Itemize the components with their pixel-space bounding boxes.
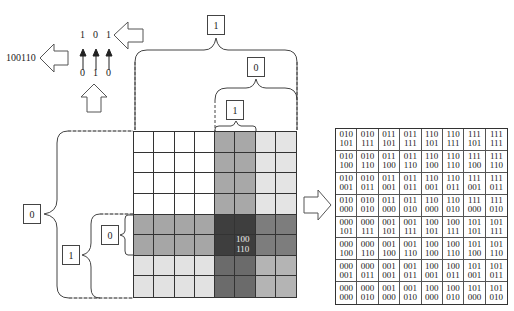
grid-cell: [235, 276, 255, 297]
code-cell: 011000: [379, 195, 400, 217]
code-lower: 001: [425, 183, 439, 192]
code-cell: 101100: [464, 238, 485, 260]
code-cell: 101011: [486, 260, 507, 282]
grid-cell: [215, 215, 235, 236]
code-lower: 111: [361, 139, 374, 148]
code-lower: 100: [425, 249, 439, 258]
grid-cell: [235, 132, 255, 153]
code-lower: 111: [361, 227, 374, 236]
code-lower: 101: [382, 139, 396, 148]
grid-cell: [154, 173, 174, 194]
grid-cell: [175, 256, 195, 277]
code-cell: 010101: [336, 129, 357, 151]
grid-cell: [215, 235, 235, 256]
code-cell: 110000: [422, 195, 443, 217]
grid-cell: [134, 215, 154, 236]
code-cell: 101010: [486, 282, 507, 304]
code-cell: 001001: [379, 260, 400, 282]
code-lower: 100: [382, 161, 396, 170]
grid-cell: [276, 256, 296, 277]
code-cell: 000011: [357, 260, 378, 282]
code-lower: 001: [382, 183, 396, 192]
code-cell: 111010: [486, 195, 507, 217]
code-cell: 001000: [379, 282, 400, 304]
grid-cell: [235, 173, 255, 194]
code-cell: 011101: [379, 129, 400, 151]
grid-cell: [215, 173, 235, 194]
grid-cell: [235, 256, 255, 277]
code-cell: 100101: [422, 217, 443, 239]
code-lower: 000: [468, 293, 482, 302]
code-lower: 101: [339, 227, 353, 236]
center-cell-code: 100 110: [236, 234, 250, 254]
right-arrow-icon: [304, 190, 331, 220]
code-cell: 011010: [400, 195, 421, 217]
brace-label: 1: [226, 100, 244, 120]
code-lower: 011: [361, 271, 374, 280]
code-lower: 110: [361, 249, 374, 258]
code-lower: 110: [446, 249, 459, 258]
code-cell: 001100: [379, 238, 400, 260]
code-cell: 010000: [336, 195, 357, 217]
code-cell: 111001: [464, 173, 485, 195]
code-lower: 000: [468, 205, 482, 214]
grid-cell: [134, 276, 154, 297]
code-lower: 011: [361, 183, 374, 192]
brace-label: 0: [247, 57, 265, 77]
code-cell: 110110: [443, 151, 464, 173]
grid-cell: [195, 173, 215, 194]
grid-cell: [195, 194, 215, 215]
grid-cell: [134, 173, 154, 194]
code-cell: 111110: [486, 151, 507, 173]
grid-cell: [134, 132, 154, 153]
grid-cell: [175, 194, 195, 215]
code-lower: 011: [404, 183, 417, 192]
brace-label: 0: [101, 225, 119, 245]
grid-cell: [195, 132, 215, 153]
grid-cell: [256, 276, 276, 297]
grid-cell: [154, 215, 174, 236]
grid-cell: [154, 153, 174, 174]
code-cell: 110101: [422, 129, 443, 151]
code-cell: 001010: [400, 282, 421, 304]
code-cell: 110100: [422, 151, 443, 173]
code-cell: 110011: [443, 173, 464, 195]
grid-cell: [235, 153, 255, 174]
code-lower: 011: [490, 183, 503, 192]
code-lower: 101: [382, 227, 396, 236]
grid-cell: [215, 153, 235, 174]
brace-label: 0: [23, 204, 41, 224]
code-cell: 000000: [336, 282, 357, 304]
code-lower: 001: [468, 183, 482, 192]
code-lower: 011: [446, 183, 459, 192]
code-lower: 100: [468, 249, 482, 258]
grid-cell: [256, 132, 276, 153]
lower-bit: 1: [93, 68, 98, 78]
code-lower: 100: [425, 161, 439, 170]
code-lower: 100: [382, 249, 396, 258]
code-lower: 000: [382, 205, 396, 214]
grid-cell: [154, 132, 174, 153]
code-lower: 100: [468, 161, 482, 170]
upper-bit: 1: [106, 30, 111, 40]
grid-cell: [276, 132, 296, 153]
code-cell: 010010: [357, 195, 378, 217]
code-lower: 001: [425, 271, 439, 280]
code-cell: 100111: [443, 217, 464, 239]
code-cell: 100001: [422, 260, 443, 282]
grid-cell: [154, 235, 174, 256]
code-cell: 101110: [486, 238, 507, 260]
grid-cell: [195, 153, 215, 174]
code-cell: 000001: [336, 260, 357, 282]
code-cell: 001101: [379, 217, 400, 239]
grid-cell: [215, 132, 235, 153]
code-cell: 101111: [486, 217, 507, 239]
code-lower: 011: [490, 271, 503, 280]
code-cell: 000101: [336, 217, 357, 239]
grid-cell: [256, 215, 276, 236]
grid-cell: [134, 235, 154, 256]
code-lower: 000: [339, 293, 353, 302]
code-lower: 111: [490, 227, 503, 236]
grid-cell: [175, 132, 195, 153]
grid-cell: [195, 256, 215, 277]
